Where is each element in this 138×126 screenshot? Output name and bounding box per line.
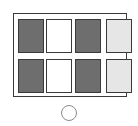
grid-cell-r2c3[interactable] — [75, 59, 101, 93]
grid-cell-r1c4[interactable] — [106, 19, 132, 53]
grid-cell-r1c1[interactable] — [18, 19, 44, 53]
diagram-canvas — [0, 0, 138, 126]
grid-cell-r2c1[interactable] — [18, 59, 44, 93]
grid-cell-r2c2[interactable] — [46, 59, 72, 93]
grid-cell-r2c4[interactable] — [106, 59, 132, 93]
grid-cell-r1c3[interactable] — [75, 19, 101, 53]
grid-cell-r1c2[interactable] — [46, 19, 72, 53]
cell-grid — [14, 14, 128, 98]
outer-frame — [13, 13, 127, 97]
circle-marker-icon — [61, 105, 77, 121]
